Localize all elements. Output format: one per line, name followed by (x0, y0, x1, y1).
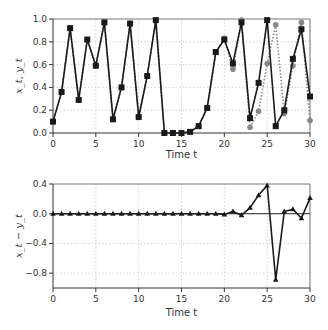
square-marker-icon (247, 115, 253, 121)
x-tick-label: 25 (261, 294, 272, 304)
square-marker-icon (119, 84, 125, 90)
x-tick-label: 0 (50, 139, 56, 149)
x-tick-label: 5 (93, 139, 99, 149)
x-tick-label: 30 (304, 294, 316, 304)
y-tick-label: 0.2 (33, 105, 47, 115)
square-marker-icon (59, 89, 65, 95)
square-marker-icon (264, 17, 270, 23)
square-marker-icon (196, 123, 202, 129)
square-marker-icon (256, 80, 262, 86)
chart-svg: 0510152025300.00.20.40.60.81.0Time tx_t,… (0, 0, 328, 330)
circle-marker-icon (307, 118, 313, 124)
triangle-marker-icon (264, 182, 270, 187)
x-axis-label: Time t (165, 307, 198, 318)
square-marker-icon (76, 97, 82, 103)
y-tick-label: 1.0 (33, 14, 48, 24)
x-tick-label: 30 (304, 139, 316, 149)
square-marker-icon (144, 73, 150, 79)
square-marker-icon (307, 94, 313, 100)
square-marker-icon (161, 130, 167, 136)
y-tick-label: 0.4 (33, 82, 48, 92)
square-marker-icon (170, 130, 176, 136)
x-axis-label: Time t (165, 149, 198, 160)
circle-marker-icon (247, 125, 253, 131)
y-axis-label: x_t − y_t (13, 213, 25, 258)
x-tick-label: 5 (93, 294, 99, 304)
circle-marker-icon (256, 109, 262, 115)
x-tick-label: 10 (133, 139, 145, 149)
square-marker-icon (187, 129, 193, 135)
square-marker-icon (230, 60, 236, 66)
y-axis-label: x_t, y_t (13, 57, 25, 94)
x-tick-label: 20 (219, 294, 231, 304)
square-marker-icon (67, 25, 73, 31)
circle-marker-icon (299, 20, 305, 26)
square-marker-icon (136, 114, 142, 120)
square-marker-icon (204, 105, 210, 111)
square-marker-icon (238, 19, 244, 25)
square-marker-icon (93, 63, 99, 69)
figure: 0510152025300.00.20.40.60.81.0Time tx_t,… (0, 0, 328, 330)
triangle-marker-icon (230, 208, 236, 213)
y-tick-label: −0.8 (25, 268, 47, 278)
square-marker-icon (298, 26, 304, 32)
square-marker-icon (273, 123, 279, 129)
panel-top: 0510152025300.00.20.40.60.81.0Time tx_t,… (13, 14, 316, 160)
y-tick-label: 0.8 (33, 37, 48, 47)
x-tick-label: 0 (50, 294, 56, 304)
y-tick-label: 0.0 (33, 209, 48, 219)
square-marker-icon (179, 130, 185, 136)
square-marker-icon (213, 49, 219, 55)
y-tick-label: 0.0 (33, 128, 48, 138)
x-tick-label: 15 (176, 139, 187, 149)
y-tick-label: −0.4 (25, 238, 47, 248)
panel-bottom: 0510152025300.40.0−0.4−0.8Time tx_t − y_… (13, 179, 316, 318)
square-marker-icon (281, 107, 287, 113)
square-marker-icon (50, 119, 56, 125)
y-tick-label: 0.4 (33, 179, 48, 189)
x-tick-label: 25 (261, 139, 272, 149)
square-marker-icon (153, 17, 159, 23)
triangle-marker-icon (307, 195, 313, 200)
x-tick-label: 10 (133, 294, 145, 304)
x-tick-label: 20 (219, 139, 231, 149)
triangle-marker-icon (290, 206, 296, 211)
y-tick-label: 0.6 (33, 60, 48, 70)
square-marker-icon (127, 21, 133, 27)
square-marker-icon (110, 116, 116, 122)
circle-marker-icon (273, 22, 279, 28)
square-marker-icon (101, 19, 107, 25)
x-tick-label: 15 (176, 294, 187, 304)
square-marker-icon (290, 56, 296, 62)
circle-marker-icon (230, 66, 236, 72)
square-marker-icon (221, 37, 227, 43)
circle-marker-icon (264, 61, 270, 67)
triangle-marker-icon (273, 277, 279, 282)
square-marker-icon (84, 37, 90, 43)
